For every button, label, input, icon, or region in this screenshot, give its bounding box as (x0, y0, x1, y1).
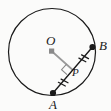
radius-op-segment (52, 51, 73, 70)
label-foot-p: P (72, 67, 79, 78)
point-a-dot (50, 90, 56, 96)
point-b-dot (89, 44, 95, 50)
label-point-a: A (49, 98, 57, 111)
geometry-figure: O B A P (0, 0, 111, 111)
circle-chord-diagram (0, 0, 111, 111)
right-angle-marker (62, 64, 67, 75)
center-point-marker (49, 49, 54, 54)
label-center-o: O (46, 34, 55, 47)
label-point-b: B (99, 39, 107, 52)
